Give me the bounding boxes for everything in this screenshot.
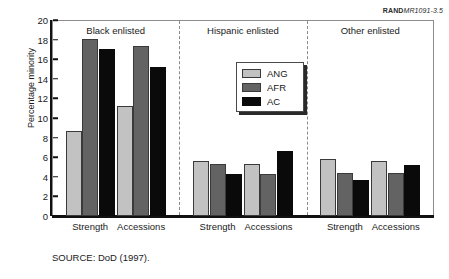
y-tick-mark <box>53 196 58 198</box>
y-tick-mark <box>53 117 58 119</box>
bars-layer <box>52 20 434 216</box>
bar-ang <box>193 161 209 216</box>
y-tick-label: 16 <box>18 54 48 65</box>
y-tick-label: 8 <box>18 132 48 143</box>
bar-ac <box>226 174 242 216</box>
rand-brand: RAND <box>383 7 404 14</box>
legend-label-afr: AFR <box>267 83 286 93</box>
legend-item-afr: AFR <box>242 81 298 94</box>
bar-afr <box>133 46 149 216</box>
bar-ang <box>66 131 82 216</box>
y-tick-label: 10 <box>18 113 48 124</box>
y-tick-label: 14 <box>18 73 48 84</box>
legend-item-ac: AC <box>242 95 298 108</box>
y-tick-mark <box>53 58 58 60</box>
y-axis-ticks: 02468101214161820 <box>0 0 48 279</box>
panel-divider <box>179 21 180 215</box>
rand-number: MR1091-3.5 <box>403 7 443 14</box>
panel-divider <box>307 21 308 215</box>
bar-ac <box>353 180 369 216</box>
bar-ac <box>99 49 115 216</box>
legend-item-ang: ANG <box>242 67 298 80</box>
bar-ac <box>150 67 166 216</box>
bar-ang <box>244 164 260 216</box>
figure-bar-chart: RANDMR1091-3.5 Percentage minority 02468… <box>0 0 449 279</box>
legend-swatch-afr <box>242 83 261 92</box>
bar-afr <box>388 173 404 216</box>
bar-afr <box>337 173 353 216</box>
y-tick-mark <box>53 19 58 21</box>
bar-ang <box>117 106 133 216</box>
bar-afr <box>260 174 276 216</box>
x-tick-label: Accessions <box>101 221 181 232</box>
y-tick-mark <box>53 98 58 100</box>
bar-afr <box>82 39 98 216</box>
y-tick-mark <box>53 78 58 80</box>
x-tick-label: Accessions <box>356 221 436 232</box>
y-tick-mark <box>53 156 58 158</box>
panel-title: Other enlisted <box>307 25 434 36</box>
y-tick-mark <box>53 176 58 178</box>
bar-afr <box>210 164 226 216</box>
legend-label-ac: AC <box>267 97 280 107</box>
legend-label-ang: ANG <box>267 69 288 79</box>
y-tick-label: 20 <box>18 15 48 26</box>
y-tick-label: 2 <box>18 191 48 202</box>
x-tick-label: Accessions <box>228 221 308 232</box>
source-note: SOURCE: DoD (1997). <box>52 252 150 263</box>
rand-figure-id: RANDMR1091-3.5 <box>383 7 443 14</box>
chart-legend: ANG AFR AC <box>236 62 304 112</box>
legend-swatch-ac <box>242 97 261 106</box>
bar-ang <box>320 159 336 216</box>
y-tick-label: 4 <box>18 171 48 182</box>
legend-swatch-ang <box>242 69 261 78</box>
y-tick-mark <box>53 39 58 41</box>
bar-ac <box>404 165 420 216</box>
bar-ac <box>277 151 293 216</box>
panel-title: Hispanic enlisted <box>179 25 306 36</box>
y-tick-label: 0 <box>18 211 48 222</box>
panel-title: Black enlisted <box>52 25 179 36</box>
y-tick-mark <box>53 215 58 217</box>
y-tick-mark <box>53 137 58 139</box>
y-tick-label: 18 <box>18 34 48 45</box>
y-tick-label: 6 <box>18 152 48 163</box>
y-tick-label: 12 <box>18 93 48 104</box>
bar-ang <box>371 161 387 216</box>
